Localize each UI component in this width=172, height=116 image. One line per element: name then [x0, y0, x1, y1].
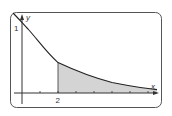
chart-frame: y 1 x 2: [0, 0, 172, 116]
x-tick-label-2: 2: [56, 96, 61, 105]
y-tick-label-1: 1: [14, 24, 19, 33]
exponential-decay-chart: y 1 x 2: [0, 0, 172, 116]
